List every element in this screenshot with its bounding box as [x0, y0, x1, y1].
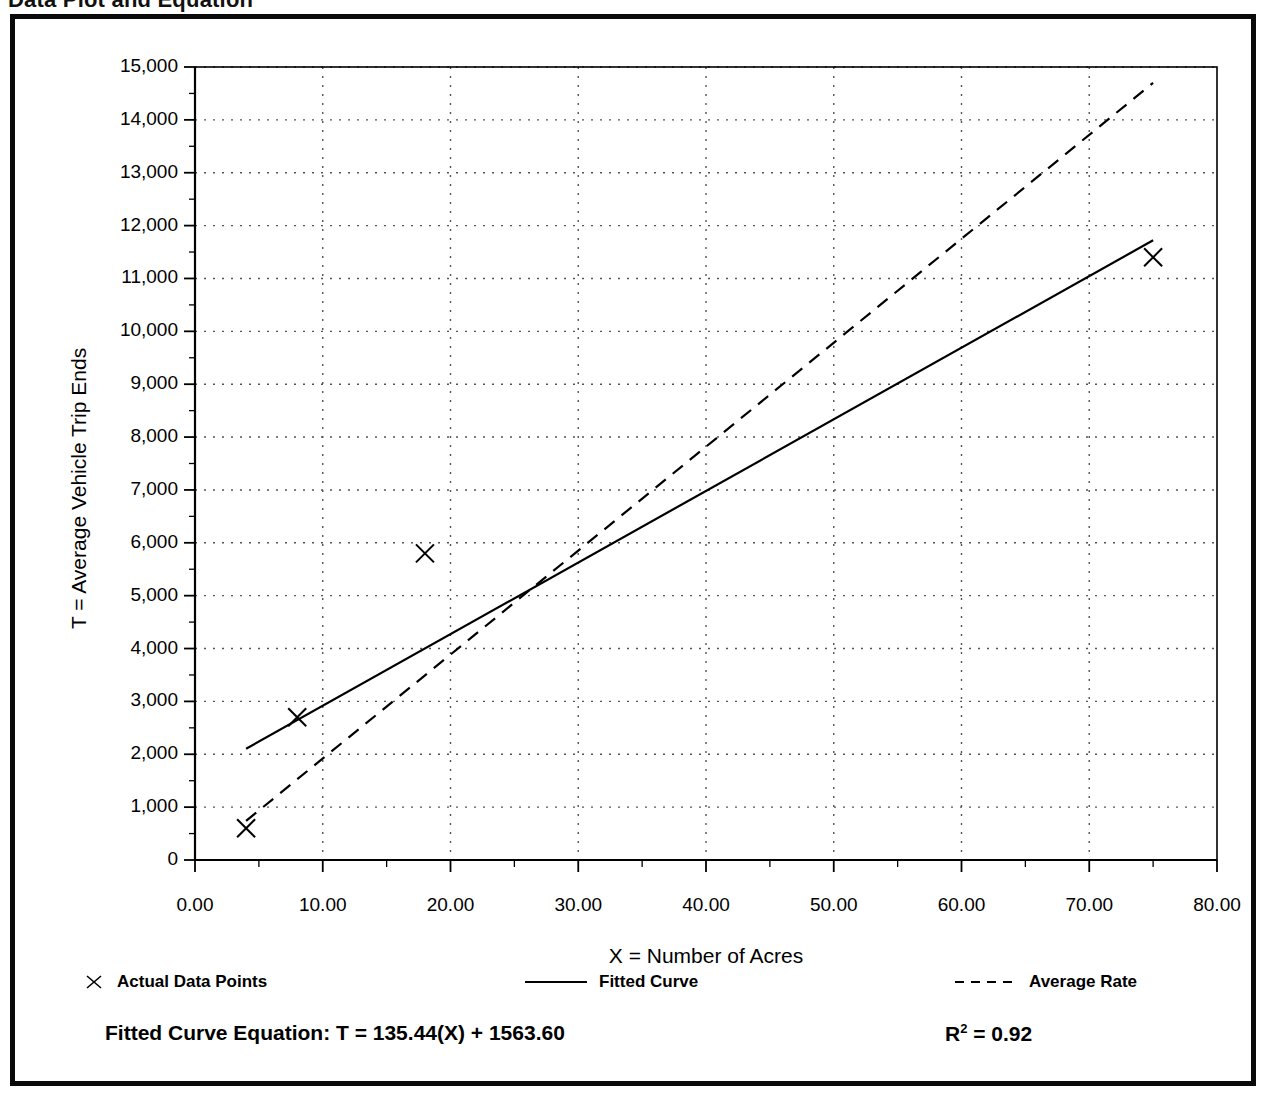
legend-label-actual-data-points: Actual Data Points	[117, 972, 267, 992]
x-axis-tick-label: 0.00	[135, 894, 255, 916]
fitted-curve-equation: Fitted Curve Equation: T = 135.44(X) + 1…	[105, 1021, 565, 1045]
x-axis-tick-label: 60.00	[902, 894, 1022, 916]
legend-label-fitted-curve: Fitted Curve	[599, 972, 698, 992]
x-axis-tick-label: 10.00	[263, 894, 383, 916]
y-axis-tick-label: 2,000	[60, 742, 178, 764]
y-axis-tick-label: 0	[60, 848, 178, 870]
y-axis-tick-label: 14,000	[60, 108, 178, 130]
r-squared-annotation: R2 = 0.92	[945, 1021, 1032, 1046]
y-axis-tick-label: 4,000	[60, 637, 178, 659]
x-axis-tick-label: 40.00	[646, 894, 766, 916]
chart-plot-area	[15, 19, 1261, 1091]
solid-line-icon	[525, 972, 587, 992]
legend-item-fitted-curve: Fitted Curve	[525, 965, 698, 999]
legend-label-average-rate: Average Rate	[1029, 972, 1137, 992]
x-axis-tick-label: 80.00	[1157, 894, 1277, 916]
y-axis-tick-label: 12,000	[60, 214, 178, 236]
equation-row: Fitted Curve Equation: T = 135.44(X) + 1…	[55, 1021, 1235, 1061]
x-axis-tick-label: 50.00	[774, 894, 894, 916]
x-marker-icon	[83, 972, 105, 992]
chart-figure: 01,0002,0003,0004,0005,0006,0007,0008,00…	[15, 19, 1261, 1091]
y-axis-title: T = Average Vehicle Trip Ends	[67, 347, 91, 628]
page-title: Data Plot and Equation	[8, 0, 253, 13]
chart-legend: Actual Data Points Fitted Curve	[55, 965, 1235, 999]
x-axis-tick-label: 30.00	[518, 894, 638, 916]
x-axis-tick-label: 20.00	[391, 894, 511, 916]
y-axis-tick-label: 11,000	[60, 266, 178, 288]
r-squared-value: = 0.92	[967, 1022, 1032, 1045]
r-squared-prefix: R	[945, 1022, 960, 1045]
chart-frame: 01,0002,0003,0004,0005,0006,0007,0008,00…	[10, 14, 1256, 1086]
y-axis-tick-label: 10,000	[60, 319, 178, 341]
page-root: Data Plot and Equation 01,0002,0003,0004…	[0, 0, 1278, 1096]
y-axis-tick-label: 1,000	[60, 795, 178, 817]
legend-item-actual-data-points: Actual Data Points	[83, 965, 267, 999]
dashed-line-icon	[955, 972, 1017, 992]
y-axis-tick-label: 15,000	[60, 55, 178, 77]
legend-item-average-rate: Average Rate	[955, 965, 1137, 999]
x-axis-tick-label: 70.00	[1029, 894, 1149, 916]
y-axis-tick-label: 3,000	[60, 689, 178, 711]
y-axis-tick-label: 13,000	[60, 161, 178, 183]
